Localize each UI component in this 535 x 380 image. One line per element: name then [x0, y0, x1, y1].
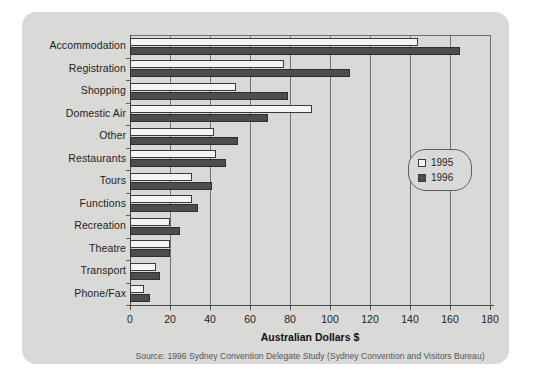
- bar-group: [130, 60, 490, 83]
- bar-group: [130, 218, 490, 241]
- bar-1996-recreation: [130, 227, 180, 235]
- bar-1995-transport: [130, 263, 156, 271]
- x-tick-label-0: 0: [127, 313, 133, 325]
- gridline-180: [490, 35, 491, 305]
- category-label-shopping: Shopping: [81, 84, 126, 96]
- plot-top-border: [130, 35, 490, 36]
- x-tick-label-140: 140: [401, 313, 419, 325]
- bar-group: [130, 105, 490, 128]
- bar-group: [130, 285, 490, 308]
- bar-group: [130, 83, 490, 106]
- bar-1995-registration: [130, 60, 284, 68]
- bar-1996-shopping: [130, 92, 288, 100]
- bar-group: [130, 240, 490, 263]
- bar-group: [130, 128, 490, 151]
- filled-square-swatch-icon: [418, 174, 426, 182]
- x-tick-label-160: 160: [441, 313, 459, 325]
- x-tick-label-120: 120: [361, 313, 379, 325]
- x-tick-label-80: 80: [284, 313, 296, 325]
- category-label-theatre: Theatre: [89, 242, 126, 254]
- category-label-phone-fax: Phone/Fax: [74, 287, 126, 299]
- bar-1996-restaurants: [130, 159, 226, 167]
- category-label-other: Other: [99, 129, 126, 141]
- legend-label-1996: 1996: [431, 172, 453, 183]
- category-label-transport: Transport: [81, 264, 126, 276]
- category-label-restaurants: Restaurants: [68, 152, 126, 164]
- category-label-accommodation: Accommodation: [49, 39, 126, 51]
- bar-1996-domestic-air: [130, 114, 268, 122]
- bar-1996-functions: [130, 204, 198, 212]
- category-label-domestic-air: Domestic Air: [66, 107, 126, 119]
- x-tick-label-180: 180: [481, 313, 499, 325]
- category-label-recreation: Recreation: [74, 219, 126, 231]
- plot-area: 020406080100120140160180 Australian Doll…: [130, 35, 490, 305]
- legend-label-1995: 1995: [431, 157, 453, 168]
- chart-legend: 1995 1996: [408, 149, 472, 191]
- category-axis-labels: AccommodationRegistrationShoppingDomesti…: [18, 35, 126, 305]
- bar-group: [130, 195, 490, 218]
- x-tick-label-100: 100: [321, 313, 339, 325]
- bar-1995-domestic-air: [130, 105, 312, 113]
- bar-1995-phone-fax: [130, 285, 144, 293]
- bar-1995-tours: [130, 173, 192, 181]
- bar-1995-theatre: [130, 240, 170, 248]
- source-note: Source: 1996 Sydney Convention Delegate …: [40, 351, 535, 361]
- category-label-functions: Functions: [80, 197, 126, 209]
- bar-1996-accommodation: [130, 47, 460, 55]
- bar-1996-theatre: [130, 249, 170, 257]
- bar-group: [130, 263, 490, 286]
- bar-1996-registration: [130, 69, 350, 77]
- bar-1995-shopping: [130, 83, 236, 91]
- category-label-tours: Tours: [100, 174, 126, 186]
- x-tick-label-20: 20: [164, 313, 176, 325]
- tickmark-180: [490, 305, 491, 310]
- bar-1995-functions: [130, 195, 192, 203]
- bar-1995-restaurants: [130, 150, 216, 158]
- legend-item-1996: 1996: [418, 170, 471, 185]
- bar-1995-other: [130, 128, 214, 136]
- bar-1995-recreation: [130, 218, 170, 226]
- chart-panel: AccommodationRegistrationShoppingDomesti…: [22, 12, 509, 364]
- bar-1996-tours: [130, 182, 212, 190]
- x-tick-label-60: 60: [244, 313, 256, 325]
- bar-1996-transport: [130, 272, 160, 280]
- bar-group: [130, 38, 490, 61]
- bar-1996-other: [130, 137, 238, 145]
- bar-1996-phone-fax: [130, 294, 150, 302]
- category-label-registration: Registration: [69, 62, 126, 74]
- x-tick-label-40: 40: [204, 313, 216, 325]
- legend-item-1995: 1995: [418, 155, 471, 170]
- bar-1995-accommodation: [130, 38, 418, 46]
- open-square-swatch-icon: [418, 159, 426, 167]
- x-axis-title: Australian Dollars $: [130, 331, 490, 343]
